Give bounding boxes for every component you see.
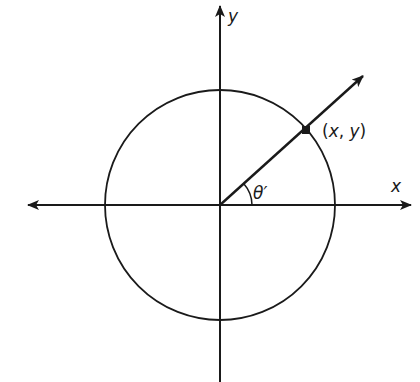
y-axis-label: y (227, 6, 239, 26)
angle-arc (244, 184, 252, 205)
angle-label: θ′ (253, 183, 267, 203)
unit-circle-diagram: y x θ′ (x, y) (0, 0, 420, 382)
x-axis-label: x (390, 176, 402, 196)
point-label: (x, y) (322, 121, 366, 141)
point-marker (302, 126, 310, 134)
